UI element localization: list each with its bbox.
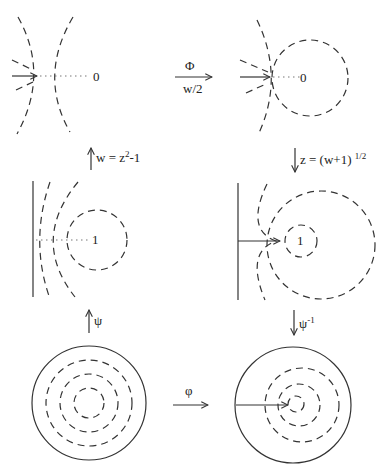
panel-middle-left — [33, 181, 127, 297]
dashed-circle-middle — [60, 374, 118, 432]
point-label-zero-top-right: 0 — [300, 71, 307, 84]
point-label-one-middle-right: 1 — [297, 234, 304, 247]
panel-middle-right — [238, 183, 375, 300]
panel-top-right — [240, 20, 348, 135]
point-label-one-middle-left: 1 — [92, 233, 99, 246]
dashed-circle-outer — [46, 360, 132, 446]
dashed-circle-large — [267, 191, 375, 299]
dashed-ray-upper — [240, 60, 268, 72]
unit-disk-boundary — [32, 346, 146, 460]
dashed-level-curve-right — [55, 17, 73, 132]
map-label-phi-cap: Φ — [185, 59, 195, 72]
dashed-circle-inner — [74, 388, 104, 418]
panel-top-left — [12, 17, 90, 134]
dashed-ray-upper — [12, 60, 33, 70]
map-label-psi: ψ — [94, 314, 102, 327]
point-label-zero-top-left: 0 — [93, 70, 100, 83]
map-label-phi: φ — [185, 384, 193, 397]
map-sublabel-w-half: w/2 — [183, 82, 203, 95]
dashed-ray-lower — [16, 82, 33, 90]
dashed-ray-lower — [246, 84, 266, 93]
dashed-arc-inner — [40, 182, 50, 296]
map-label-psi-inverse: ψ-1 — [299, 316, 315, 330]
panel-bottom-right — [235, 347, 351, 463]
dashed-circle-inner — [288, 396, 304, 412]
map-label-square: w = z2-1 — [96, 150, 140, 164]
panel-bottom-left — [32, 346, 146, 460]
map-label-sqrt: z = (w+1) 1/2 — [300, 152, 366, 166]
dashed-circle — [272, 40, 348, 116]
